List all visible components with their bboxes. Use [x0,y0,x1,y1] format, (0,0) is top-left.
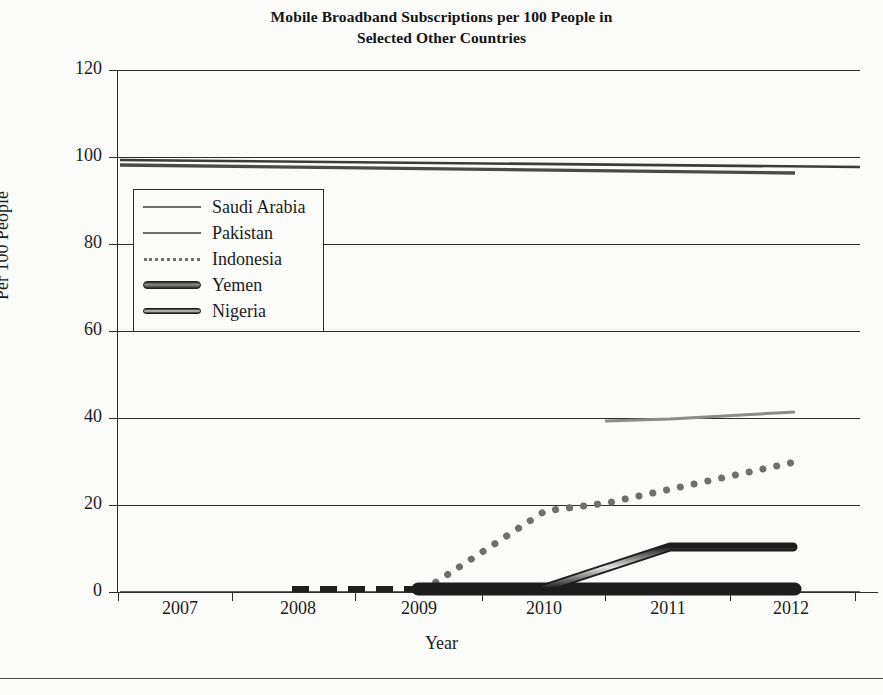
series-layer [0,0,883,695]
legend-label-saudi-arabia: Saudi Arabia [212,197,305,218]
series-line-nigeria [545,547,793,588]
legend-item-pakistan[interactable]: Pakistan [134,220,323,246]
legend-label-indonesia: Indonesia [212,249,282,270]
legend-item-indonesia[interactable]: Indonesia [134,246,323,272]
legend-label-pakistan: Pakistan [212,223,273,244]
legend-label-nigeria: Nigeria [212,301,266,322]
legend-key-line-icon [143,226,201,240]
chart-figure: Mobile Broadband Subscriptions per 100 P… [0,0,883,695]
chart-legend: Saudi Arabia Pakistan Indonesia Yemen Ni… [133,189,324,332]
legend-item-saudi-arabia[interactable]: Saudi Arabia [134,194,323,220]
legend-item-yemen[interactable]: Yemen [134,272,323,298]
series-line-saudi-arabia [605,412,795,421]
legend-key-line-icon [143,200,201,214]
legend-key-thick-line-icon [143,278,201,292]
legend-key-thick-line-icon [143,304,201,318]
series-line-nigeria-outline [545,547,793,588]
page-divider [0,678,883,679]
legend-label-yemen: Yemen [212,275,262,296]
legend-key-dotted-line-icon [143,252,201,266]
legend-item-nigeria[interactable]: Nigeria [134,298,323,324]
